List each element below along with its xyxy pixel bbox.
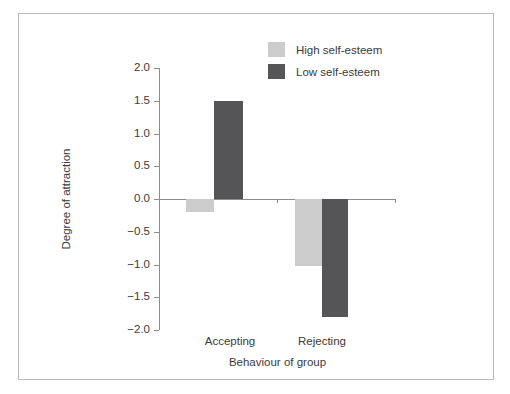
y-tick-mark [154,265,159,266]
y-tick-label: −1.0 [106,259,150,271]
x-axis-title: Behaviour of group [159,356,396,368]
x-tick-mark [277,199,278,203]
y-tick-label: 2.0 [106,62,150,74]
bar-accepting-low-self-esteem [214,101,243,199]
y-axis-title: Degree of attraction [60,119,72,279]
legend-label-low-self-esteem: Low self-esteem [296,65,380,79]
y-tick-label: −0.5 [106,226,150,238]
legend-label-high-self-esteem: High self-esteem [296,43,382,57]
y-tick-label: 0.0 [106,193,150,205]
y-tick-label: 1.5 [106,95,150,107]
y-tick-mark [154,297,159,298]
y-tick-mark [154,166,159,167]
bar-rejecting-low-self-esteem [322,199,348,317]
y-tick-label: 0.5 [106,160,150,172]
y-tick-mark [154,199,159,200]
bar-rejecting-high-self-esteem [295,199,322,266]
y-tick-mark [154,134,159,135]
legend-item-high-self-esteem: High self-esteem [268,42,438,64]
legend-item-low-self-esteem: Low self-esteem [268,64,438,86]
bar-accepting-high-self-esteem [186,199,214,212]
y-tick-label: −2.0 [106,324,150,336]
y-tick-label: −1.5 [106,291,150,303]
bar-chart: 2.0 1.5 1.0 0.5 0.0 −0.5 −1.0 −1.5 −2.0 … [0,0,510,394]
y-tick-mark [154,101,159,102]
y-tick-label: 1.0 [106,128,150,140]
legend-swatch-high-self-esteem [268,42,285,57]
x-category-label-rejecting: Rejecting [262,336,382,348]
y-tick-mark [154,68,159,69]
y-tick-mark [154,232,159,233]
x-tick-mark [395,199,396,203]
chart-legend: High self-esteem Low self-esteem [268,42,438,86]
legend-swatch-low-self-esteem [268,64,285,79]
y-tick-mark [154,330,159,331]
